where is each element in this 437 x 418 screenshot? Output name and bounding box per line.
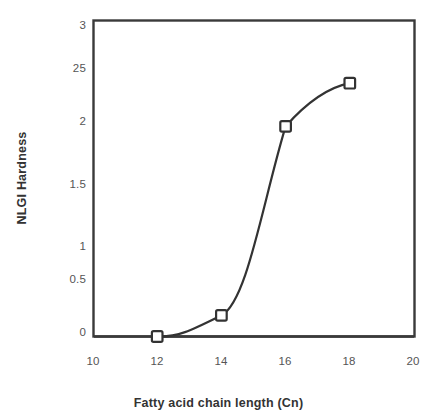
data-point-cn12 xyxy=(152,331,163,342)
data-markers xyxy=(152,78,355,342)
data-line-nlgi-hardness xyxy=(157,83,350,336)
data-point-cn14 xyxy=(216,310,227,321)
data-point-cn16 xyxy=(280,121,291,132)
plot-frame xyxy=(94,21,415,337)
chart-figure: NLGI Hardness Fatty acid chain length (C… xyxy=(0,0,437,418)
data-point-cn18 xyxy=(345,78,356,89)
plot-area xyxy=(0,0,437,418)
